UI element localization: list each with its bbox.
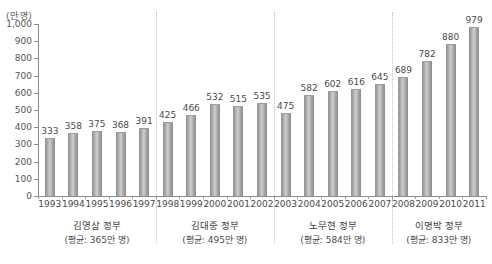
period-average: (평균: 584만 명) [300, 233, 365, 247]
bar-value-label: 880 [442, 32, 459, 42]
period-captions: 김영삼 정부(평균: 365만 명)김대중 정부(평균: 495만 명)노무현 … [38, 219, 486, 261]
bar-slot: 391 [133, 24, 155, 196]
period-name: 노무현 정부 [300, 219, 365, 233]
y-tick-label: 900 [15, 36, 32, 46]
bar-slot: 689 [392, 24, 414, 196]
x-axis-label: 2002 [251, 199, 274, 209]
bar [139, 128, 149, 196]
x-axis-label: 1994 [62, 199, 85, 209]
period-name: 김영삼 정부 [64, 219, 129, 233]
x-axis-label: 1993 [38, 199, 61, 209]
bar-slot: 782 [416, 24, 438, 196]
x-axis-label: 2004 [298, 199, 321, 209]
bar [446, 44, 456, 196]
x-axis-label: 1997 [133, 199, 156, 209]
y-tick-label: 600 [15, 88, 32, 98]
period-average: (평균: 833만 명) [406, 233, 471, 247]
bar-value-label: 375 [88, 119, 105, 129]
period-caption: 이명박 정부(평균: 833만 명) [406, 219, 471, 247]
period-name: 김대중 정부 [182, 219, 247, 233]
x-tick [486, 196, 487, 199]
bar-value-label: 358 [65, 121, 82, 131]
bar [163, 122, 173, 196]
bar [233, 106, 243, 196]
bar-value-label: 368 [112, 120, 129, 130]
bar [375, 84, 385, 196]
bar-value-label: 535 [253, 91, 270, 101]
bar-slot: 880 [440, 24, 462, 196]
x-axis-label: 2008 [392, 199, 415, 209]
bar-slot: 368 [110, 24, 132, 196]
y-tick-label: 400 [15, 122, 32, 132]
bar-value-label: 391 [136, 116, 153, 126]
bar-slot: 602 [322, 24, 344, 196]
bar-slot: 375 [86, 24, 108, 196]
bar-slot: 358 [62, 24, 84, 196]
bar-slot: 515 [227, 24, 249, 196]
y-tick-label: 300 [15, 139, 32, 149]
x-axis-label: 2001 [227, 199, 250, 209]
period-caption: 김대중 정부(평균: 495만 명) [182, 219, 247, 247]
bar-slot: 645 [369, 24, 391, 196]
x-axis-line [38, 196, 486, 197]
period-average: (평균: 495만 명) [182, 233, 247, 247]
plot-area: 1,0009008007006005004003002001000 333358… [38, 24, 486, 196]
y-tick-label: 700 [15, 71, 32, 81]
x-axis-labels: 1993199419951996199719981999200020012002… [38, 199, 486, 213]
x-axis-label: 2000 [203, 199, 226, 209]
bar [398, 77, 408, 197]
bar [351, 89, 361, 196]
y-tick-label: 1,000 [6, 19, 32, 29]
bar-value-label: 979 [466, 15, 483, 25]
bar-value-label: 689 [395, 65, 412, 75]
period-name: 이명박 정부 [406, 219, 471, 233]
x-axis-label: 1996 [109, 199, 132, 209]
x-axis-label: 2009 [416, 199, 439, 209]
bar [422, 61, 432, 197]
bar-value-label: 425 [159, 110, 176, 120]
bar [68, 133, 78, 196]
bar [469, 27, 479, 196]
x-axis-label: 2010 [439, 199, 462, 209]
bar-slot: 535 [251, 24, 273, 196]
x-axis-label: 1998 [156, 199, 179, 209]
bar [328, 91, 338, 196]
x-axis-label: 2003 [274, 199, 297, 209]
bar [45, 138, 55, 196]
x-axis-label: 2005 [321, 199, 344, 209]
bar-value-label: 333 [41, 126, 58, 136]
y-tick-label: 500 [15, 105, 32, 115]
bar [304, 95, 314, 196]
y-tick-label: 100 [15, 174, 32, 184]
x-axis-label: 2006 [345, 199, 368, 209]
bar-chart: (만 명) 1,0009008007006005004003002001000 … [0, 0, 492, 264]
bar-slot: 616 [345, 24, 367, 196]
x-axis-label: 2007 [368, 199, 391, 209]
bar-value-label: 475 [277, 101, 294, 111]
period-caption: 김영삼 정부(평균: 365만 명) [64, 219, 129, 247]
bar-slot: 333 [39, 24, 61, 196]
bar [116, 132, 126, 196]
x-axis-label: 2011 [463, 199, 486, 209]
bar-slot: 466 [180, 24, 202, 196]
bar-value-label: 602 [324, 79, 341, 89]
bar-slot: 425 [157, 24, 179, 196]
bar-value-label: 515 [230, 94, 247, 104]
period-caption: 노무현 정부(평균: 584만 명) [300, 219, 365, 247]
y-tick-label: 800 [15, 53, 32, 63]
bar-value-label: 532 [206, 92, 223, 102]
y-tick-label: 0 [26, 191, 32, 201]
x-axis-label: 1995 [85, 199, 108, 209]
bar [281, 113, 291, 196]
bar [186, 115, 196, 196]
bar-value-label: 582 [301, 83, 318, 93]
bar-value-label: 466 [183, 103, 200, 113]
bar-value-label: 616 [348, 77, 365, 87]
period-average: (평균: 365만 명) [64, 233, 129, 247]
bar-slot: 582 [298, 24, 320, 196]
bar-value-label: 782 [418, 49, 435, 59]
bar-series: 3333583753683914254665325155354755826026… [38, 24, 486, 196]
bar-slot: 475 [275, 24, 297, 196]
bar [210, 104, 220, 197]
bar-value-label: 645 [371, 72, 388, 82]
